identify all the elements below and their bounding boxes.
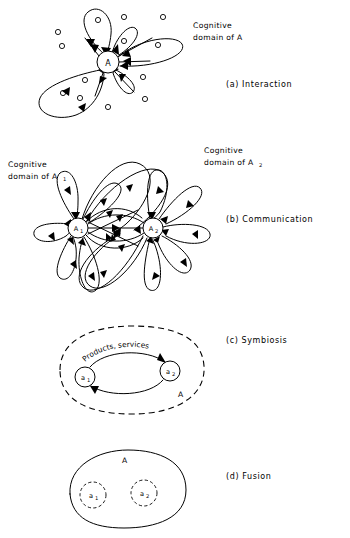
node-a2-sub: 2	[172, 371, 175, 377]
lobe-a2-down	[144, 237, 160, 290]
panel-d-fusion: a 1 a 2 A (d) Fusion	[70, 450, 272, 528]
panel-c-symbiosis: Products, services a 1 a 2 A (c) Symbios…	[60, 326, 287, 414]
dot	[77, 95, 82, 100]
dot	[59, 43, 64, 48]
node-A-group: A	[97, 51, 119, 73]
node-a1-fusion-label: a	[89, 492, 93, 500]
arrowhead	[90, 386, 99, 394]
cognitive-domain-a2-sub: 2	[259, 162, 262, 168]
caption-d: (d) Fusion	[226, 472, 271, 481]
cognitive-domain-label-line1: Cognitive	[193, 21, 232, 30]
node-A2-group: A 2	[143, 218, 163, 238]
cognitive-domain-a2-line2-group: domain of A 2	[204, 158, 262, 168]
figure-svg: A Cognitive domain of A (a) Interaction	[0, 0, 350, 538]
arrowhead	[48, 232, 55, 241]
cognitive-domain-a2-line2: domain of A	[204, 158, 254, 167]
arrowhead	[192, 230, 198, 239]
node-a1-fusion-sub: 1	[95, 495, 98, 501]
panel-c-arrowheads	[90, 353, 166, 394]
arrowhead	[70, 260, 77, 269]
lobe-lower-left	[39, 70, 104, 117]
arrowhead	[156, 186, 164, 194]
cognitive-domain-a1-line2: domain of A	[8, 172, 58, 181]
node-A1-group: A 1	[68, 218, 88, 238]
dot	[142, 96, 147, 101]
arc-return	[91, 380, 163, 394]
arrowhead	[64, 186, 71, 195]
dot	[105, 104, 110, 109]
caption-b: (b) Communication	[226, 215, 313, 224]
node-a2-fusion-label: a	[140, 490, 144, 498]
node-a2-label: a	[166, 368, 170, 376]
dot	[155, 42, 160, 47]
node-a2-fusion-sub: 2	[146, 493, 149, 499]
node-a2-group: a 2	[160, 361, 180, 381]
link-a1-a2-upper	[88, 215, 144, 224]
node-a1-label: a	[81, 374, 85, 382]
arrowhead	[157, 353, 166, 363]
cognitive-domain-a1-sub: 1	[63, 176, 66, 182]
cognitive-domain-a2-line1: Cognitive	[204, 146, 243, 155]
arc-products-services	[90, 353, 165, 367]
node-a1-group: a 1	[75, 367, 95, 387]
node-A1-label: A	[74, 225, 79, 233]
cognitive-domain-a1-line1: Cognitive	[8, 160, 47, 169]
dot	[121, 38, 126, 43]
node-A-label: A	[105, 59, 111, 68]
dot	[82, 77, 87, 82]
arrowhead	[119, 74, 126, 82]
arrowhead	[180, 258, 187, 267]
products-services-label: Products, services	[81, 340, 151, 364]
symbiosis-boundary-label: A	[178, 390, 184, 399]
fusion-boundary	[70, 450, 186, 528]
dot	[160, 14, 165, 19]
arrowhead	[126, 184, 133, 192]
node-a1-sub: 1	[87, 377, 90, 383]
node-A1-sub: 1	[80, 228, 83, 234]
dot	[55, 29, 60, 34]
dot	[121, 14, 126, 19]
arrowhead	[88, 272, 95, 281]
figure-container: A Cognitive domain of A (a) Interaction	[0, 0, 350, 538]
arrowhead	[100, 270, 107, 278]
dot	[140, 74, 145, 79]
panel-a-arrowheads	[62, 39, 131, 112]
cognitive-domain-label-line2: domain of A	[193, 33, 243, 42]
fusion-boundary-label: A	[122, 456, 128, 465]
arrowhead	[152, 272, 160, 280]
panel-a-interaction: A Cognitive domain of A (a) Interaction	[39, 9, 292, 117]
caption-c: (c) Symbiosis	[226, 336, 287, 345]
cognitive-domain-a1-line2-group: domain of A 1	[8, 172, 66, 182]
node-A2-sub: 2	[155, 228, 158, 234]
arrowhead	[106, 210, 113, 218]
node-A2-label: A	[149, 225, 154, 233]
arrowhead	[134, 225, 141, 234]
caption-a: (a) Interaction	[226, 80, 292, 89]
arrowhead	[100, 198, 107, 206]
products-services-textpath: Products, services	[81, 340, 151, 364]
dot	[95, 17, 100, 22]
lobe-a2-down-right	[158, 236, 191, 273]
panel-b-communication: A 1 A 2 Cognitive domain of A 1 Cognitiv…	[8, 146, 313, 292]
